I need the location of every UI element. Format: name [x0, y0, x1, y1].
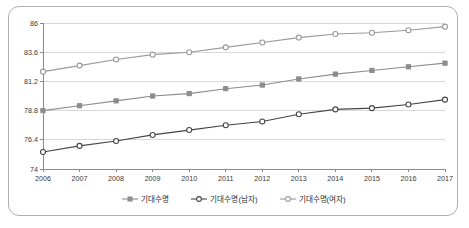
data-point-marker: [150, 132, 155, 137]
x-axis-tick-label: 2006: [35, 174, 51, 183]
data-series: [41, 24, 448, 154]
x-axis-ticks: 2006200720082009201020112012201320142015…: [35, 169, 453, 183]
data-point-marker: [333, 72, 337, 76]
series-line: [43, 27, 445, 72]
x-axis-tick-label: 2012: [254, 174, 270, 183]
data-point-marker: [333, 107, 338, 112]
series-1: [41, 61, 447, 113]
x-axis-tick-label: 2007: [72, 174, 88, 183]
data-point-marker: [369, 106, 374, 111]
x-axis-tick-label: 2014: [327, 174, 343, 183]
data-point-marker: [333, 31, 338, 36]
legend-entry-2[interactable]: 기대수명(남자): [191, 193, 257, 204]
data-point-marker: [223, 45, 228, 50]
legend-filled-square-icon: [122, 195, 138, 203]
data-point-marker: [114, 99, 118, 103]
y-axis-tick-label: 83.6: [24, 48, 38, 57]
y-axis-tick-label: 86: [30, 19, 38, 28]
data-point-marker: [406, 65, 410, 69]
y-axis-tick-label: 74: [30, 165, 38, 174]
data-point-marker: [443, 61, 447, 65]
data-point-marker: [296, 112, 301, 117]
data-point-marker: [260, 40, 265, 45]
x-axis-tick-label: 2013: [291, 174, 307, 183]
data-point-marker: [224, 87, 228, 91]
series-line: [43, 63, 445, 110]
series-3: [41, 24, 448, 74]
y-axis-tick-label: 78.8: [24, 106, 38, 115]
data-point-marker: [41, 109, 45, 113]
data-point-marker: [443, 97, 448, 102]
legend-label: 기대수명(여자): [299, 193, 346, 204]
x-axis-tick-label: 2011: [218, 174, 233, 183]
x-axis-tick-label: 2010: [181, 174, 197, 183]
data-point-marker: [370, 68, 374, 72]
y-axis-ticks: 7476.478.881.283.686: [24, 19, 43, 174]
legend-open-circle-icon: [191, 195, 207, 203]
data-point-marker: [187, 50, 192, 55]
series-2: [41, 97, 448, 154]
data-point-marker: [369, 30, 374, 35]
x-axis-tick-label: 2009: [145, 174, 161, 183]
data-point-marker: [150, 52, 155, 57]
data-point-marker: [41, 149, 46, 154]
y-axis-tick-label: 81.2: [24, 77, 38, 86]
data-point-marker: [114, 139, 119, 144]
chart-card: 7476.478.881.283.686 2006200720082009201…: [8, 6, 458, 216]
data-point-marker: [406, 28, 411, 33]
data-point-marker: [296, 35, 301, 40]
series-line: [43, 100, 445, 152]
data-point-marker: [223, 123, 228, 128]
data-point-marker: [77, 104, 81, 108]
y-axis-tick-label: 76.4: [24, 135, 38, 144]
data-point-marker: [297, 77, 301, 81]
x-axis-tick-label: 2016: [400, 174, 416, 183]
x-axis-tick-label: 2008: [108, 174, 124, 183]
data-point-marker: [406, 102, 411, 107]
data-point-marker: [260, 83, 264, 87]
data-point-marker: [187, 128, 192, 133]
data-point-marker: [260, 119, 265, 124]
legend-label: 기대수명: [141, 193, 169, 204]
line-chart-plot: 7476.478.881.283.686 2006200720082009201…: [9, 7, 459, 217]
chart-svg: 7476.478.881.283.686 2006200720082009201…: [9, 7, 459, 217]
legend-entry-1[interactable]: 기대수명: [122, 193, 169, 204]
data-point-marker: [77, 143, 82, 148]
chart-legend: 기대수명기대수명(남자)기대수명(여자): [9, 193, 459, 204]
data-point-marker: [77, 63, 82, 68]
legend-label: 기대수명(남자): [210, 193, 257, 204]
data-point-marker: [151, 94, 155, 98]
legend-entry-3[interactable]: 기대수명(여자): [280, 193, 346, 204]
data-point-marker: [187, 91, 191, 95]
legend-open-circle-icon: [280, 195, 296, 203]
data-point-marker: [114, 57, 119, 62]
data-point-marker: [41, 69, 46, 74]
x-axis-tick-label: 2017: [437, 174, 453, 183]
x-axis-tick-label: 2015: [364, 174, 380, 183]
data-point-marker: [443, 24, 448, 29]
